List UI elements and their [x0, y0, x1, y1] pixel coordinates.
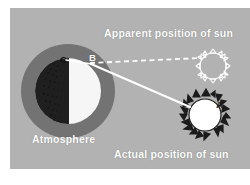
refraction-diagram: Apparent position of sun Actual position… — [0, 0, 250, 185]
apparent-sun — [196, 49, 230, 83]
actual-sun — [180, 89, 230, 140]
apparent-light-ray — [90, 58, 200, 63]
point-b-label: B — [89, 53, 96, 63]
point-c-label: C — [60, 55, 67, 65]
point-a-label: A — [216, 100, 223, 110]
actual-position-label: Actual position of sun — [114, 149, 229, 160]
apparent-position-label: Apparent position of sun — [104, 28, 233, 39]
atmosphere-label: Atmosphere — [32, 134, 95, 145]
diagram-panel: Apparent position of sun Actual position… — [10, 8, 250, 169]
